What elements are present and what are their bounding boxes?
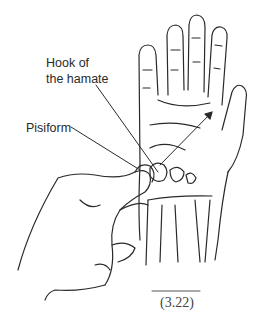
figure-caption: (3.22) [160,295,194,311]
anatomy-figure: Hook of the hamate Pisiform (3.22) [0,0,262,329]
hand-illustration [0,0,262,329]
hook-of-hamate-label-line2: the hamate [46,71,109,87]
hook-of-hamate-label-line1: Hook of [46,55,89,71]
pisiform-label: Pisiform [26,120,71,136]
